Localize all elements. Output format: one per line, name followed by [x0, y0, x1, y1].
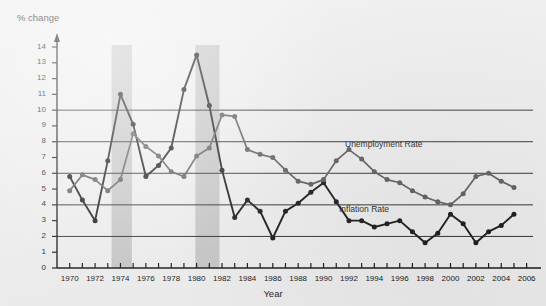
x-tick-label-2006: 2006	[512, 274, 542, 283]
data-point	[258, 152, 263, 157]
data-point	[321, 177, 326, 182]
y-tick-label-9: 9	[24, 120, 46, 129]
data-point	[270, 155, 275, 160]
data-point	[194, 153, 199, 158]
y-axis-arrow-icon	[54, 33, 60, 42]
unemployment-series-label: Unemployment Rate	[345, 139, 422, 149]
data-point	[296, 179, 301, 184]
data-point	[194, 52, 199, 57]
data-point	[156, 163, 161, 168]
y-tick-label-2: 2	[24, 231, 46, 240]
data-point	[93, 218, 98, 223]
data-point	[181, 174, 186, 179]
data-point	[435, 231, 440, 236]
data-point	[220, 168, 225, 173]
data-point	[232, 114, 237, 119]
data-point	[131, 131, 136, 136]
data-point	[232, 215, 237, 220]
y-tick-mark-group	[52, 47, 57, 268]
data-point	[143, 144, 148, 149]
data-point	[131, 122, 136, 127]
plot-area	[0, 0, 546, 306]
inflation-series-label: Inflation Rate	[339, 204, 389, 214]
data-point	[499, 179, 504, 184]
data-point	[207, 103, 212, 108]
data-point	[220, 112, 225, 117]
x-tick-mark-group	[70, 263, 527, 268]
data-point	[245, 147, 250, 152]
data-point	[359, 218, 364, 223]
chart-container: % change Year 01234567891011121314 19701…	[0, 0, 546, 306]
data-point	[385, 177, 390, 182]
data-series-group	[67, 52, 516, 245]
data-point	[118, 177, 123, 182]
data-point	[118, 92, 123, 97]
recession-band-1973-1975	[112, 45, 132, 268]
data-point	[461, 221, 466, 226]
data-point	[283, 168, 288, 173]
data-point	[486, 229, 491, 234]
data-point	[372, 224, 377, 229]
data-point	[359, 157, 364, 162]
y-tick-label-8: 8	[24, 136, 46, 145]
data-point	[296, 201, 301, 206]
data-point	[169, 169, 174, 174]
data-point	[67, 174, 72, 179]
y-tick-label-5: 5	[24, 184, 46, 193]
y-tick-label-12: 12	[24, 73, 46, 82]
series-line	[70, 115, 514, 205]
y-tick-label-3: 3	[24, 215, 46, 224]
data-point	[346, 218, 351, 223]
data-point	[511, 212, 516, 217]
data-point	[169, 146, 174, 151]
y-tick-label-1: 1	[24, 247, 46, 256]
data-point	[258, 209, 263, 214]
y-tick-label-14: 14	[24, 42, 46, 51]
data-point	[499, 223, 504, 228]
data-point	[207, 146, 212, 151]
data-point	[511, 185, 516, 190]
data-point	[67, 188, 72, 193]
y-tick-label-7: 7	[24, 152, 46, 161]
data-point	[245, 198, 250, 203]
y-tick-label-6: 6	[24, 168, 46, 177]
data-point	[461, 191, 466, 196]
data-point	[105, 158, 110, 163]
series-line	[70, 55, 514, 243]
data-point	[473, 174, 478, 179]
y-tick-label-0: 0	[24, 263, 46, 272]
data-point	[334, 199, 339, 204]
data-point	[473, 240, 478, 245]
data-point	[181, 87, 186, 92]
data-point	[143, 174, 148, 179]
y-tick-label-10: 10	[24, 105, 46, 114]
data-point	[156, 153, 161, 158]
data-point	[308, 182, 313, 187]
data-point	[435, 199, 440, 204]
data-point	[334, 158, 339, 163]
data-point	[410, 229, 415, 234]
y-tick-label-4: 4	[24, 199, 46, 208]
data-point	[283, 209, 288, 214]
data-point	[385, 221, 390, 226]
data-point	[423, 240, 428, 245]
y-tick-label-11: 11	[24, 89, 46, 98]
data-point	[448, 212, 453, 217]
data-point	[423, 194, 428, 199]
data-point	[486, 171, 491, 176]
data-point	[93, 177, 98, 182]
y-tick-label-13: 13	[24, 57, 46, 66]
data-point	[397, 218, 402, 223]
data-point	[410, 188, 415, 193]
data-point	[372, 169, 377, 174]
data-point	[397, 180, 402, 185]
data-point	[80, 198, 85, 203]
data-point	[308, 190, 313, 195]
data-point	[80, 172, 85, 177]
data-point	[448, 202, 453, 207]
series-inflation-rate	[67, 52, 516, 245]
data-point	[270, 236, 275, 241]
data-point	[105, 188, 110, 193]
